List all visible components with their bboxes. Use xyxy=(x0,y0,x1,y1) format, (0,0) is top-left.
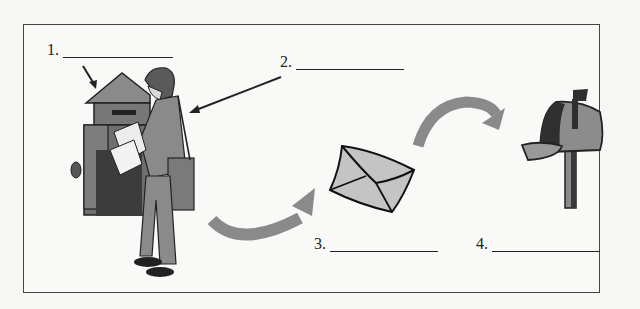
label-4: 4. xyxy=(476,236,600,252)
envelope-icon xyxy=(330,146,414,212)
label-2-blank[interactable] xyxy=(296,57,404,70)
label-4-number: 4. xyxy=(476,236,488,252)
label-1: 1. xyxy=(47,42,173,58)
label-1-number: 1. xyxy=(47,42,59,58)
label-2: 2. xyxy=(280,54,404,70)
curved-arrow-1-icon xyxy=(212,188,315,235)
pointer-arrow-2-icon xyxy=(189,77,281,113)
label-2-number: 2. xyxy=(280,54,292,70)
mailbox-icon xyxy=(522,89,603,208)
label-3-number: 3. xyxy=(314,236,326,252)
label-4-blank[interactable] xyxy=(492,239,600,252)
pointer-arrow-1-icon xyxy=(83,66,97,89)
label-1-blank[interactable] xyxy=(63,45,173,58)
curved-arrow-2-icon xyxy=(418,102,505,146)
label-3-blank[interactable] xyxy=(330,239,438,252)
label-3: 3. xyxy=(314,236,438,252)
